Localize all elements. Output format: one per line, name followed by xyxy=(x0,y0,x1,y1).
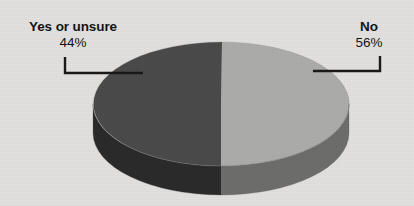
slice-label-yes-or-unsure-percent: 44% xyxy=(8,36,138,51)
slice-label-no-percent: 56% xyxy=(330,36,408,51)
slice-label-yes-or-unsure-name: Yes or unsure xyxy=(8,20,138,35)
pie-body xyxy=(93,42,350,195)
slice-label-no-name: No xyxy=(330,20,408,35)
slice-label-no: No 56% xyxy=(330,20,408,50)
slice-label-yes-or-unsure: Yes or unsure 44% xyxy=(8,20,138,50)
